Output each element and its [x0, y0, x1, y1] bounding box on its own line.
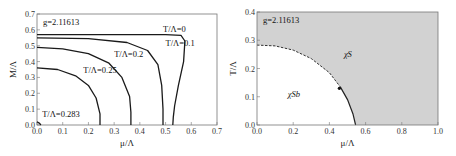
y-tick-label: 0.3 — [245, 36, 255, 45]
x-tick-label: 0.1 — [58, 127, 68, 136]
x-tick-label: 0.2 — [83, 127, 93, 136]
y-tick-label: 0.0 — [245, 121, 255, 130]
x-axis-label: μ/Λ — [120, 138, 134, 148]
figure: 0.00.10.20.30.40.50.60.70.00.10.20.30.40… — [0, 0, 456, 156]
x-tick-label: 0.4 — [135, 127, 145, 136]
y-axis-label: M/Λ — [8, 61, 18, 79]
critical-point — [338, 87, 341, 90]
curve-label: T/Λ=0 — [163, 24, 186, 34]
x-tick-label: 0.6 — [186, 127, 196, 136]
y-tick-label: 0.4 — [25, 58, 35, 67]
curve-label: T/Λ=0.2 — [114, 49, 143, 59]
phase-diagram-plot: χSχSb0.00.20.40.60.81.00.00.10.20.30.4μ/… — [228, 8, 443, 148]
x-tick-label: 0.2 — [288, 127, 298, 136]
x-tick-label: 1.0 — [433, 127, 443, 136]
x-tick-label: 0.5 — [161, 127, 171, 136]
curve-label: T/Λ=0.1 — [166, 38, 195, 48]
y-tick-label: 0.1 — [25, 105, 35, 114]
y-tick-label: 0.0 — [25, 121, 35, 130]
x-tick-label: 0.7 — [212, 127, 222, 136]
region-label: χS — [343, 49, 353, 59]
y-tick-label: 0.1 — [245, 93, 255, 102]
curve — [37, 122, 41, 125]
y-tick-label: 0.5 — [25, 42, 35, 51]
y-tick-label: 0.7 — [25, 10, 35, 19]
x-tick-label: 0.8 — [397, 127, 407, 136]
x-tick-label: 0.3 — [109, 127, 119, 136]
y-tick-label: 0.2 — [25, 89, 35, 98]
region-label: χSb — [287, 89, 300, 99]
coupling-annotation: g=2.11613 — [43, 17, 79, 27]
curve-label: T/Λ=0.283 — [42, 109, 80, 119]
x-tick-label: 0.4 — [324, 127, 334, 136]
y-tick-label: 0.2 — [245, 65, 255, 74]
x-tick-label: 0.6 — [361, 127, 371, 136]
y-axis-label: T/Λ — [228, 61, 238, 76]
x-axis-label: μ/Λ — [341, 138, 355, 148]
mass-vs-mu-plot: 0.00.10.20.30.40.50.60.70.00.10.20.30.40… — [8, 10, 222, 148]
y-tick-label: 0.4 — [245, 8, 255, 17]
y-tick-label: 0.6 — [25, 26, 35, 35]
curve-label: T/Λ=0.25 — [83, 65, 116, 75]
coupling-annotation: g=2.11613 — [263, 15, 299, 25]
y-tick-label: 0.3 — [25, 73, 35, 82]
